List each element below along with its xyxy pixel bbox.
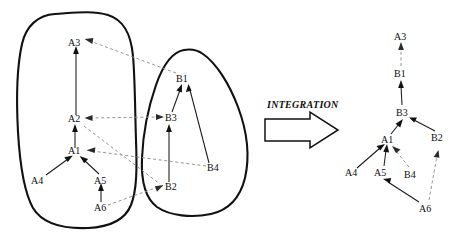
node-b1-label: B1 — [176, 73, 188, 84]
node-a4-label: A4 — [31, 175, 43, 186]
edge-int-b2-b3 — [414, 120, 435, 131]
arrowhead-int-a6-a5 — [383, 178, 391, 183]
arrowhead-int-a5-a1 — [383, 144, 389, 152]
integrated-graph-node-labels: A3 B1 B3 A1 B2 A4 A5 B4 A6 — [345, 31, 443, 214]
arrowhead-int-a6-b2 — [434, 150, 440, 158]
arrowhead-b2-b3 — [166, 124, 172, 132]
edge-b3-b1 — [172, 90, 180, 112]
arrowhead-b3-b1 — [176, 84, 182, 92]
node-int-b1-label: B1 — [394, 68, 406, 79]
edge-int-a4-a1 — [357, 148, 380, 168]
edge-int-b3-b1 — [401, 86, 402, 105]
edge-int-b4-a1 — [396, 151, 409, 167]
node-a1-label: A1 — [68, 145, 80, 156]
arrowhead-a2-b3-at-a2 — [85, 115, 93, 121]
arrowhead-a6-b2 — [155, 185, 164, 192]
node-int-a4-label: A4 — [345, 167, 357, 178]
diagram-canvas: A3 A2 A1 A4 A5 A6 B1 B3 B4 B2 INTEGRATIO… — [0, 0, 462, 242]
node-a5-label: A5 — [94, 175, 106, 186]
node-a2-label: A2 — [68, 113, 80, 124]
arrowhead-int-b1-a3 — [398, 42, 404, 50]
edge-a5-a1 — [84, 160, 99, 174]
integrated-graph-edges — [357, 42, 439, 202]
edge-a4-a1 — [46, 159, 68, 175]
arrowhead-a2-b3-at-b3 — [156, 114, 164, 120]
group-b-edges — [166, 84, 209, 182]
edge-b4-b1 — [190, 90, 209, 163]
arrowhead-b4-b1 — [186, 84, 192, 92]
node-int-a5-label: A5 — [374, 167, 386, 178]
edge-int-a6-b2 — [429, 156, 437, 200]
node-b3-label: B3 — [165, 112, 177, 123]
arrowhead-a1-a2 — [72, 124, 78, 132]
edge-int-a6-a5 — [388, 182, 419, 202]
group-a-node-labels: A3 A2 A1 A4 A5 A6 — [31, 37, 106, 213]
node-int-a3-label: A3 — [394, 31, 406, 42]
integration-label: INTEGRATION — [266, 99, 339, 110]
node-a6-label: A6 — [94, 202, 106, 213]
node-int-a1-label: A1 — [381, 134, 393, 145]
node-int-a6-label: A6 — [419, 203, 431, 214]
arrowhead-int-b3-b1 — [398, 80, 404, 88]
edge-int-a5-a1 — [384, 150, 386, 166]
arrowhead-int-b2-b3 — [409, 117, 417, 122]
node-b2-label: B2 — [165, 181, 177, 192]
arrowhead-b1-a3 — [85, 38, 94, 44]
integration-arrow — [265, 112, 338, 148]
node-int-b3-label: B3 — [396, 107, 408, 118]
node-int-b4-label: B4 — [404, 169, 416, 180]
edge-b4-a1 — [92, 151, 206, 166]
group-b-node-labels: B1 B3 B4 B2 — [165, 73, 219, 192]
arrowhead-int-b4-a1 — [392, 146, 401, 153]
node-b4-label: B4 — [207, 162, 219, 173]
node-int-b2-label: B2 — [431, 132, 443, 143]
node-a3-label: A3 — [68, 37, 80, 48]
arrowhead-b4-a1 — [87, 147, 96, 153]
